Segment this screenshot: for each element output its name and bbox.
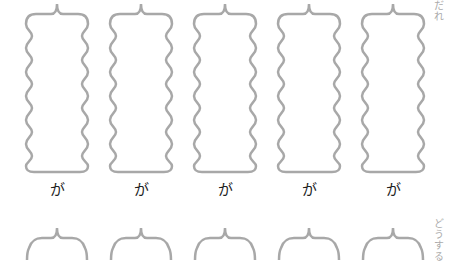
answer-box-row1-2[interactable]	[108, 4, 174, 176]
particle-ga: が	[360, 178, 426, 199]
answer-box-row1-1[interactable]	[24, 4, 90, 176]
particle-ga: が	[276, 178, 342, 199]
scalloped-frame-icon	[24, 228, 90, 277]
answer-box-row1-3[interactable]	[192, 4, 258, 176]
scalloped-frame-icon	[276, 228, 342, 277]
particle-ga: が	[24, 178, 90, 199]
particle-ga: が	[108, 178, 174, 199]
scalloped-frame-icon	[108, 4, 174, 176]
scalloped-frame-icon	[192, 4, 258, 176]
scalloped-frame-icon	[276, 4, 342, 176]
answer-box-row1-5[interactable]	[360, 4, 426, 176]
particle-ga: が	[192, 178, 258, 199]
scalloped-frame-icon	[108, 228, 174, 277]
scalloped-frame-icon	[360, 4, 426, 176]
answer-box-row2-3[interactable]	[192, 228, 258, 277]
scalloped-frame-icon	[192, 228, 258, 277]
answer-box-row2-1[interactable]	[24, 228, 90, 277]
answer-box-row2-5[interactable]	[360, 228, 426, 277]
scalloped-frame-icon	[24, 4, 90, 176]
answer-box-row2-4[interactable]	[276, 228, 342, 277]
row-label-who: だれ	[430, 0, 445, 22]
scalloped-frame-icon	[360, 228, 426, 277]
row-label-what-do: どうする	[430, 218, 445, 262]
answer-box-row1-4[interactable]	[276, 4, 342, 176]
answer-box-row2-2[interactable]	[108, 228, 174, 277]
